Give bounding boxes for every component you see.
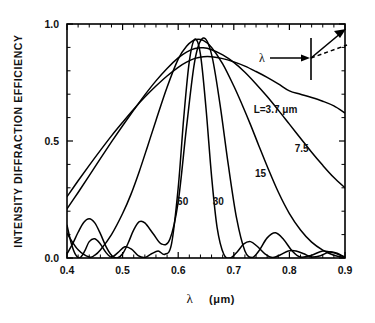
x-tick-label: 0.4: [60, 264, 75, 276]
curve-label: 7.5: [295, 143, 309, 154]
y-tick-label: 0.0: [44, 252, 59, 264]
y-tick-label: 1.0: [44, 18, 59, 30]
x-tick-label: 0.7: [226, 264, 241, 276]
data-curve: [67, 57, 345, 197]
curve-label: L=3.7 μm: [254, 104, 298, 115]
chart-canvas: 0.40.50.60.70.80.9 0.00.51.0 L=3.7 μm7.5…: [0, 0, 375, 323]
incident-ray-arrowhead: [301, 55, 310, 62]
x-axis-title-lambda: λ: [187, 291, 194, 306]
figure-container: 0.40.50.60.70.80.9 0.00.51.0 L=3.7 μm7.5…: [0, 0, 375, 323]
x-tick-label: 0.5: [115, 264, 130, 276]
x-tick-label: 0.6: [171, 264, 186, 276]
curve-label: 30: [213, 196, 225, 207]
data-curve: [67, 48, 345, 209]
x-axis-tick-labels: 0.40.50.60.70.80.9: [60, 264, 353, 276]
inset-diagram: λ: [259, 29, 347, 80]
x-axis-title-units: (μm): [209, 293, 235, 305]
inset-lambda-label: λ: [259, 51, 265, 65]
curve-label: 60: [177, 196, 189, 207]
curve-labels: L=3.7 μm7.5153060: [177, 104, 309, 207]
x-axis-title: λ (μm): [187, 291, 236, 306]
x-tick-label: 0.9: [338, 264, 353, 276]
y-tick-label: 0.5: [44, 135, 59, 147]
y-axis-title: INTENSITY DIFFRACTION EFFICIENCY: [12, 34, 24, 247]
curve-label: 15: [255, 168, 267, 179]
x-tick-label: 0.8: [282, 264, 297, 276]
diffracted-ray-line: [311, 33, 341, 58]
y-axis-tick-labels: 0.00.51.0: [44, 18, 59, 264]
